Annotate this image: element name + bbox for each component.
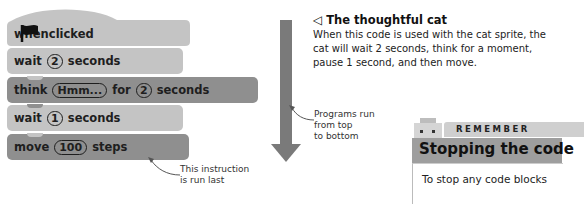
flow-line-3: to bottom [314,131,375,142]
robot-head-icon [412,118,444,138]
when-flag-clicked-block[interactable]: when clicked [7,4,190,46]
for-label: for [112,83,131,97]
note-line-2: is run last [180,175,249,186]
caption-line-3: pause 1 second, and then move. [313,56,553,70]
curved-pointer-icon [288,105,314,125]
remember-box: REMEMBER Stopping the code To stop any c… [408,118,568,198]
remember-body: To stop any code blocks [422,173,547,185]
wait-seconds-input[interactable]: 1 [47,111,63,126]
remember-title: Stopping the code [419,140,574,158]
block-notch [27,133,43,137]
flow-annotation: Programs run from top to bottom [314,109,375,142]
think-for-block[interactable]: think Hmm... for 2 seconds [7,77,258,103]
caption-line-2: cat will wait 2 seconds, think for a mom… [313,42,553,56]
steps-label: steps [92,140,127,154]
clicked-label: clicked [49,27,94,41]
think-seconds-input[interactable]: 2 [136,83,152,98]
caption-line-1: When this code is used with the cat spri… [313,28,553,42]
caption-title-text: The thoughtful cat [326,13,447,27]
caption-body: When this code is used with the cat spri… [313,28,553,70]
move-steps-input[interactable]: 100 [54,140,87,155]
wait-seconds-input[interactable]: 2 [47,54,63,69]
wait-block-1[interactable]: wait 2 seconds [7,48,183,74]
curved-pointer-icon [145,155,185,180]
green-flag-icon [20,24,42,42]
last-instruction-note: This instruction is run last [180,164,249,186]
think-label: think [14,83,47,97]
block-notch [27,104,43,108]
flow-line-2: from top [314,120,375,131]
seconds-label: seconds [68,111,121,125]
think-text-input[interactable]: Hmm... [52,83,107,98]
seconds-label: seconds [68,54,121,68]
left-triangle-icon: ◁ [313,13,322,27]
remember-label: REMEMBER [456,124,530,134]
flow-line-1: Programs run [314,109,375,120]
down-arrow-icon [270,20,302,165]
block-notch [27,76,43,80]
seconds-label: seconds [157,83,210,97]
wait-block-2[interactable]: wait 1 seconds [7,105,183,131]
note-line-1: This instruction [180,164,249,175]
caption-title: ◁ The thoughtful cat [313,13,447,27]
move-label: move [14,140,49,154]
wait-label: wait [14,54,42,68]
wait-label: wait [14,111,42,125]
